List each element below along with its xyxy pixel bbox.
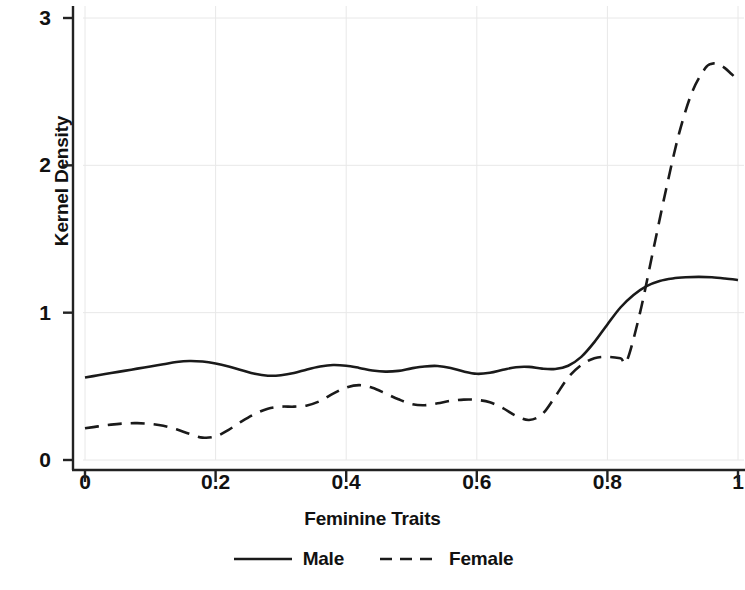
legend-swatch-solid-icon — [232, 553, 294, 565]
legend-label: Female — [449, 548, 513, 570]
legend-entry-male[interactable]: Male — [232, 548, 344, 570]
series-line-female — [85, 63, 738, 437]
legend-entry-female[interactable]: Female — [378, 548, 513, 570]
chart-legend: MaleFemale — [0, 548, 745, 570]
kernel-density-chart: Kernel Density Feminine Traits 0123 00.2… — [0, 0, 745, 590]
legend-label: Male — [303, 548, 344, 570]
series-line-male — [85, 277, 738, 378]
plot-area — [0, 0, 745, 590]
legend-swatch-dashed-icon — [378, 553, 440, 565]
